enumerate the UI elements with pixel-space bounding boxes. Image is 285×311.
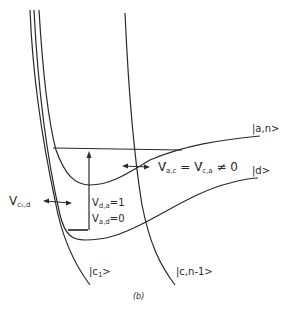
coupling-label-vcd: Vc₁,d [9,195,31,209]
potential-energy-diagram [0,0,285,311]
energy-level-line [53,148,182,150]
coupling-label-vac: Vra,c = Vrc,a ≠ 0 [158,161,238,175]
matrix-element-vad: Va,d=0 [92,214,125,226]
state-label-c1: |c1> [89,267,111,279]
figure-caption: (b) [133,293,144,301]
state-label-a-n: |a,n> [252,124,279,134]
arrow-up-head [87,151,92,158]
matrix-element-vda: Vd,a=1 [92,198,125,210]
state-label-c-n-1: |c,n-1> [176,267,213,277]
curve-c1 [30,10,90,285]
state-label-d: |d> [252,166,270,176]
